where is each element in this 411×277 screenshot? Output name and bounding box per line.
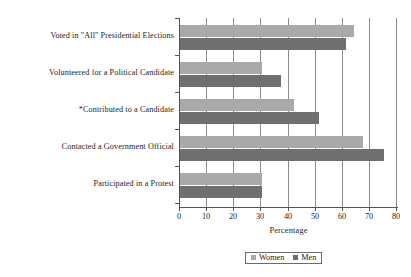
bar-women[interactable]: [180, 62, 262, 74]
category-label: Volunteered for a Political Candidate: [2, 68, 174, 78]
plot-area: [179, 18, 397, 207]
bar-group: [180, 25, 398, 51]
x-tick-label: 50: [305, 212, 325, 222]
bar-chart: Voted in "All" Presidential Elections Vo…: [0, 0, 411, 277]
bar-group: [180, 62, 398, 88]
legend-label: Men: [301, 253, 316, 262]
bar-men[interactable]: [180, 149, 384, 161]
y-axis-tick: [175, 55, 179, 56]
category-label: Participated in a Protest: [2, 179, 174, 189]
chart-legend: Women Men: [245, 252, 322, 264]
x-axis-tick: [233, 207, 234, 211]
bar-women[interactable]: [180, 173, 262, 185]
legend-swatch-icon: [293, 255, 298, 260]
x-tick-label: 0: [169, 212, 189, 222]
bar-women[interactable]: [180, 99, 294, 111]
y-axis-tick: [175, 166, 179, 167]
legend-item-men[interactable]: Men: [293, 253, 316, 262]
bar-group: [180, 136, 398, 162]
x-tick-label: 30: [250, 212, 270, 222]
bar-men[interactable]: [180, 38, 346, 50]
y-axis-tick: [175, 129, 179, 130]
legend-swatch-icon: [251, 255, 256, 260]
x-axis-tick: [369, 207, 370, 211]
category-axis-labels: Voted in "All" Presidential Elections Vo…: [0, 18, 174, 207]
x-axis-tick: [206, 207, 207, 211]
bar-men[interactable]: [180, 75, 281, 87]
y-axis-tick: [175, 18, 179, 19]
x-tick-label: 70: [359, 212, 379, 222]
x-tick-label: 10: [196, 212, 216, 222]
x-tick-label: 20: [223, 212, 243, 222]
bar-men[interactable]: [180, 186, 262, 198]
x-tick-label: 60: [332, 212, 352, 222]
x-tick-label: 40: [278, 212, 298, 222]
legend-label: Women: [259, 253, 284, 262]
bar-group: [180, 99, 398, 125]
x-axis-title: Percentage: [179, 226, 398, 235]
y-axis-tick: [175, 203, 179, 204]
x-axis-tick: [288, 207, 289, 211]
bar-men[interactable]: [180, 112, 319, 124]
bar-women[interactable]: [180, 25, 354, 37]
x-axis-tick: [260, 207, 261, 211]
category-label: *Contributed to a Candidate: [2, 105, 174, 115]
x-axis-tick: [315, 207, 316, 211]
legend-item-women[interactable]: Women: [251, 253, 284, 262]
x-tick-label: 80: [386, 212, 406, 222]
y-axis-tick: [175, 92, 179, 93]
x-axis-tick: [342, 207, 343, 211]
category-label: Contacted a Government Official: [2, 142, 174, 152]
bar-women[interactable]: [180, 136, 363, 148]
bar-group: [180, 173, 398, 199]
x-axis-tick: [179, 207, 180, 211]
x-axis-tick: [396, 207, 397, 211]
category-label: Voted in "All" Presidential Elections: [2, 31, 174, 41]
